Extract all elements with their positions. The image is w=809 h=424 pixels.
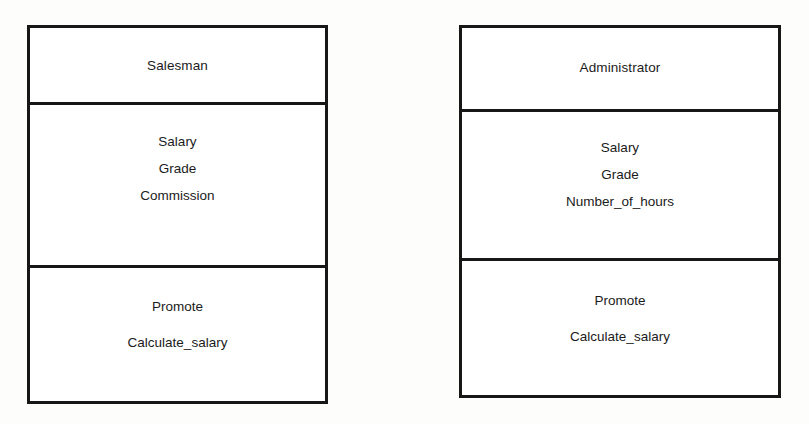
attribute-item: Commission [30,182,325,209]
operation-list-administrator: Promote Calculate_salary [462,261,778,355]
class-name-administrator: Administrator [462,28,778,75]
uml-class-diagram-canvas: Salesman Salary Grade Commission Promote… [0,0,809,424]
class-operations-compartment-administrator: Promote Calculate_salary [462,261,778,395]
operation-item: Calculate_salary [462,319,778,355]
operation-list-salesman: Promote Calculate_salary [30,268,325,361]
class-name-compartment-salesman: Salesman [30,28,325,105]
class-attributes-compartment-salesman: Salary Grade Commission [30,105,325,268]
class-name-compartment-administrator: Administrator [462,28,778,112]
class-operations-compartment-salesman: Promote Calculate_salary [30,268,325,401]
operation-item: Calculate_salary [30,325,325,361]
attribute-list-administrator: Salary Grade Number_of_hours [462,112,778,215]
operation-item: Promote [30,289,325,325]
class-attributes-compartment-administrator: Salary Grade Number_of_hours [462,112,778,261]
uml-class-salesman[interactable]: Salesman Salary Grade Commission Promote… [27,25,328,404]
attribute-item: Salary [462,134,778,161]
class-name-salesman: Salesman [30,28,325,73]
attribute-item: Salary [30,128,325,155]
operation-item: Promote [462,283,778,319]
attribute-item: Grade [30,155,325,182]
attribute-item: Grade [462,161,778,188]
uml-class-administrator[interactable]: Administrator Salary Grade Number_of_hou… [459,25,781,398]
attribute-item: Number_of_hours [462,188,778,215]
attribute-list-salesman: Salary Grade Commission [30,105,325,209]
